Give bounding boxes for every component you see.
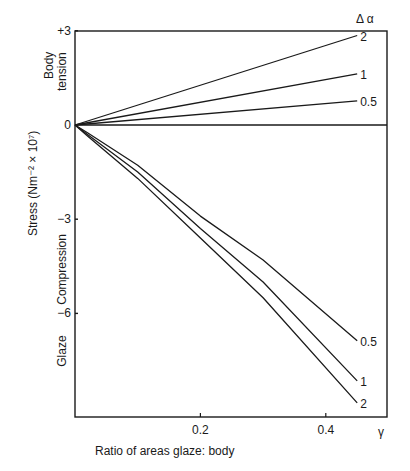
series-line-body-tension-0_5 (75, 101, 357, 125)
series-line-body-tension-2 (75, 36, 357, 126)
y-tick-label: +3 (57, 24, 71, 38)
x-axis-label: Ratio of areas glaze: body (95, 444, 234, 458)
series-label: 1 (360, 68, 367, 82)
series-line-body-tension-1 (75, 74, 357, 125)
series-label: 0.5 (360, 335, 377, 349)
region-label-compression: Compression (55, 234, 69, 305)
x-axis-symbol-gamma: γ (378, 425, 384, 439)
series-label: 0.5 (360, 95, 377, 109)
y-axis-label: Stress (Nm⁻² × 10⁷) (26, 131, 40, 236)
series-label: 2 (360, 397, 367, 411)
series-lines (75, 36, 357, 403)
x-tick-label: 0.2 (192, 423, 209, 437)
series-labels: 210.50.512 (360, 30, 377, 411)
plot-border (75, 31, 387, 417)
y-tick-label: −3 (57, 212, 71, 226)
region-label-glaze: Glaze (55, 335, 69, 367)
y-tick-label: −6 (57, 306, 71, 320)
series-label: 2 (360, 30, 367, 44)
x-tick-label: 0.4 (317, 423, 334, 437)
plot-frame (75, 31, 387, 417)
series-line-glaze-compression-2 (75, 125, 357, 403)
legend-title-delta-alpha: Δ α (356, 12, 374, 26)
series-label: 1 (360, 375, 367, 389)
region-label-body: Body (42, 52, 56, 79)
region-label-tension: tension (55, 52, 69, 91)
stress-chart: +30−3−6 0.20.4 210.50.512 BodytensionCom… (0, 0, 410, 471)
y-tick-label: 0 (64, 118, 71, 132)
